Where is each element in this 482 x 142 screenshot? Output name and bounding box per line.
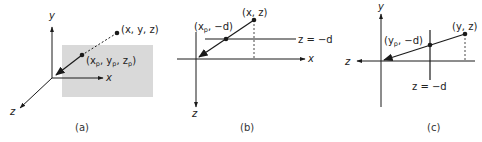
x-axis-label: x bbox=[105, 72, 112, 83]
point-projected bbox=[224, 37, 229, 42]
x-axis-label: x bbox=[307, 53, 314, 64]
panel-c: y z z = −d (y, z) (yp, −d) (c) bbox=[344, 1, 477, 133]
z-axis-label: z bbox=[9, 106, 16, 117]
point-projected bbox=[80, 53, 85, 58]
point-label-projected: (xp, −d) bbox=[194, 21, 233, 34]
point-label-xz: (x, z) bbox=[242, 7, 267, 18]
z-axis-label: z bbox=[344, 56, 351, 67]
y-axis-label: y bbox=[48, 10, 56, 21]
point-yz bbox=[463, 32, 468, 37]
point-label-xyz: (x, y, z) bbox=[121, 24, 159, 35]
point-label-projected: (yp, −d) bbox=[384, 35, 423, 48]
projection-figure: y x z (x, y, z) (xp, yp, zp) (a) x z z =… bbox=[0, 0, 482, 142]
plane-label: z = −d bbox=[412, 81, 447, 92]
caption-b: (b) bbox=[240, 122, 254, 133]
panel-a: y x z (x, y, z) (xp, yp, zp) (a) bbox=[9, 10, 159, 133]
y-axis-label: y bbox=[377, 1, 385, 12]
point-xz bbox=[252, 18, 257, 23]
caption-a: (a) bbox=[75, 122, 89, 133]
z-axis bbox=[20, 78, 52, 108]
panel-b: x z z = −d (x, z) (xp, −d) (b) bbox=[177, 7, 333, 133]
projection-plane bbox=[62, 45, 153, 97]
point-label-yz: (y, z) bbox=[452, 21, 477, 32]
point-projected bbox=[428, 43, 433, 48]
z-axis-label: z bbox=[191, 108, 198, 119]
caption-c: (c) bbox=[427, 122, 440, 133]
plane-label: z = −d bbox=[298, 34, 333, 45]
point-xyz bbox=[115, 31, 120, 36]
